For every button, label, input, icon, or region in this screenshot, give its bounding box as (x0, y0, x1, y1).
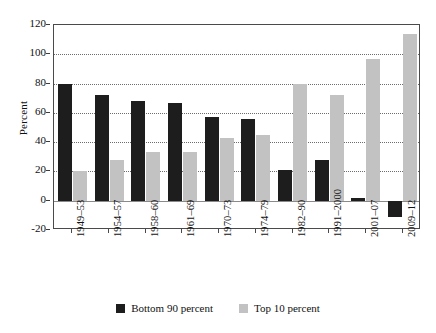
x-tick-label: 1970–73 (222, 200, 233, 237)
y-tick-label: 80 (16, 77, 46, 88)
legend-label: Bottom 90 percent (131, 302, 213, 314)
x-tick-label: 2009–12 (406, 200, 417, 237)
x-tick-mark (108, 229, 109, 233)
x-tick-mark (365, 229, 366, 233)
x-tick-mark (181, 229, 182, 233)
light-square-swatch (239, 304, 248, 313)
x-tick-label: 2001–07 (369, 200, 380, 237)
bar-top-10 (330, 95, 344, 200)
bar-bottom-90 (58, 84, 72, 201)
legend-item: Bottom 90 percent (116, 302, 213, 314)
x-tick-mark (292, 229, 293, 233)
y-tick-mark (46, 141, 50, 142)
legend-label: Top 10 percent (254, 302, 320, 314)
bar-bottom-90 (241, 119, 255, 201)
y-tick-label: 40 (16, 135, 46, 146)
x-tick-mark (402, 229, 403, 233)
bar-group (238, 25, 275, 228)
x-tick-mark (255, 229, 256, 233)
bar-top-10 (256, 135, 270, 201)
x-axis-tick-labels: 1949–531954–571958–601961–691970–731974–… (53, 229, 420, 299)
bar-series-container (54, 25, 419, 228)
x-tick-label: 1949–53 (75, 200, 86, 237)
y-tick-label: 0 (16, 194, 46, 205)
bar-top-10 (293, 84, 307, 201)
bar-bottom-90 (388, 201, 402, 217)
y-tick-mark (46, 200, 50, 201)
x-tick-label: 1958–60 (149, 200, 160, 237)
bar-bottom-90 (131, 101, 145, 201)
chart-legend: Bottom 90 percentTop 10 percent (0, 302, 436, 314)
bar-top-10 (73, 171, 87, 200)
bar-chart-figure: Percent 120100806040200-20 1949–531954–5… (0, 0, 436, 333)
bar-bottom-90 (351, 198, 365, 201)
x-tick-mark (145, 229, 146, 233)
x-tick-label: 1982–90 (296, 200, 307, 237)
y-tick-label: 120 (16, 18, 46, 29)
dark-square-swatch (116, 304, 125, 313)
x-tick-label: 1954–57 (112, 200, 123, 237)
bar-top-10 (366, 59, 380, 201)
bar-top-10 (110, 160, 124, 201)
y-tick-mark (46, 83, 50, 84)
bar-group (274, 25, 311, 228)
bar-group (201, 25, 238, 228)
bar-bottom-90 (95, 95, 109, 200)
y-tick-mark (46, 112, 50, 113)
legend-item: Top 10 percent (239, 302, 320, 314)
y-tick-label: -20 (16, 223, 46, 234)
bar-bottom-90 (205, 117, 219, 200)
x-tick-label: 1961–69 (185, 200, 196, 237)
x-tick-label: 1991–2000 (332, 189, 343, 237)
y-tick-mark (46, 170, 50, 171)
y-tick-label: 100 (16, 47, 46, 58)
y-axis-tick-labels: 120100806040200-20 (14, 0, 46, 333)
bar-group (54, 25, 91, 228)
y-tick-label: 60 (16, 106, 46, 117)
bar-top-10 (403, 34, 417, 201)
bar-top-10 (146, 152, 160, 200)
bar-group (127, 25, 164, 228)
y-tick-mark (46, 24, 50, 25)
bar-bottom-90 (278, 170, 292, 201)
x-tick-mark (328, 229, 329, 233)
x-tick-mark (218, 229, 219, 233)
bar-bottom-90 (315, 160, 329, 201)
bar-group (348, 25, 385, 228)
plot-area (53, 24, 420, 229)
bar-group (164, 25, 201, 228)
bar-group (91, 25, 128, 228)
y-tick-mark (46, 53, 50, 54)
y-tick-mark (46, 229, 50, 230)
bar-top-10 (183, 152, 197, 200)
bar-bottom-90 (168, 103, 182, 201)
bar-top-10 (220, 138, 234, 201)
bar-group (384, 25, 421, 228)
y-tick-label: 20 (16, 164, 46, 175)
x-tick-mark (71, 229, 72, 233)
x-tick-label: 1974–79 (259, 200, 270, 237)
